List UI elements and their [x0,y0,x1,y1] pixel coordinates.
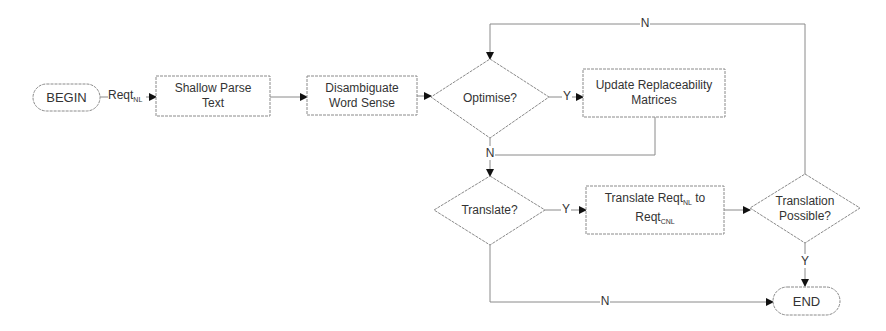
translate-box-line2-text: Reqt [635,210,660,224]
edge-label-translate-no: N [600,294,610,309]
begin-text: BEGIN [46,90,86,105]
possible-label: Translation Possible? [750,174,860,243]
reqt-text: Reqt [108,88,133,102]
update-label: Update Replaceability Matrices [583,69,725,117]
translate-box-sub1: NL [683,199,692,206]
translate-question-label: Translate? [434,176,545,245]
edge-translate-no [490,245,773,302]
edge-label-possible-no: N [640,16,650,31]
shallow-parse-label: Shallow Parse Text [156,76,270,116]
flowchart-canvas [0,0,886,331]
translate-box-label: Translate ReqtNL to ReqtCNL [586,186,724,234]
edge-label-optimise-no: N [485,146,495,161]
end-text: END [793,294,820,309]
translate-question-text: Translate? [461,203,517,218]
translate-box-pre: Translate Reqt [605,191,683,205]
edge-label-translate-yes: Y [561,202,571,217]
reqt-sub: NL [133,96,142,103]
end-label: END [773,287,840,315]
shallow-parse-line1: Shallow Parse [175,81,252,96]
edge-label-possible-yes: Y [800,254,810,269]
disambiguate-line2: Word Sense [329,96,395,111]
optimise-label: Optimise? [431,59,549,138]
update-line1: Update Replaceability [596,78,713,93]
possible-line1: Translation [776,194,835,209]
optimise-text: Optimise? [463,91,517,106]
disambiguate-label: Disambiguate Word Sense [307,76,417,115]
possible-line2: Possible? [779,209,831,224]
begin-label: BEGIN [33,84,100,111]
edge-label-reqt-nl: ReqtNL [108,88,142,107]
edge-label-optimise-yes: Y [562,89,572,104]
update-line2: Matrices [631,93,676,108]
translate-box-sub2: CNL [661,218,675,225]
translate-box-line1: Translate ReqtNL to [605,191,706,210]
translate-box-line2: ReqtCNL [635,210,674,229]
translate-box-post: to [692,191,705,205]
disambiguate-line1: Disambiguate [325,81,398,96]
shallow-parse-line2: Text [202,96,224,111]
